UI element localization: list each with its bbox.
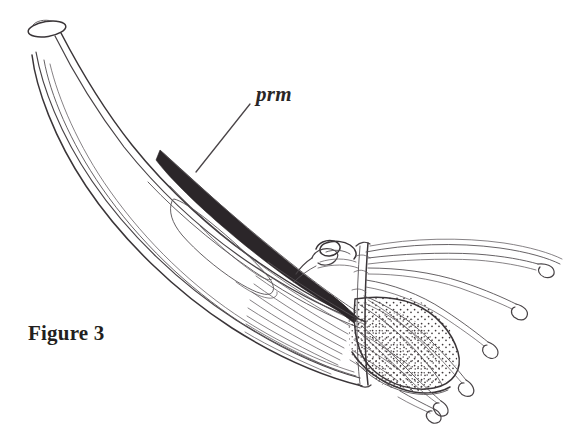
filament-5-tip — [433, 401, 448, 416]
hook-outline-2 — [312, 249, 338, 265]
hook-stem-left — [296, 258, 312, 274]
hook-ridge-a — [320, 259, 356, 262]
apical-opening-ellipse — [27, 19, 67, 40]
figure-container: prm Figure 3 — [0, 0, 581, 428]
filament-3-tip — [483, 342, 498, 358]
filament-1-tip — [538, 264, 554, 278]
prm-callout-label: prm — [254, 82, 292, 106]
filament-2-tip — [511, 304, 527, 320]
drawing-strokes: prm Figure 3 — [27, 19, 562, 424]
prm-leader-line — [196, 104, 250, 172]
lumen-upper-edge — [148, 182, 360, 328]
filament-base-curve-1 — [356, 255, 370, 258]
filament-base-curve-3 — [352, 289, 366, 292]
apical-opening-group — [27, 19, 67, 40]
cut-edge-bottom — [358, 384, 371, 387]
figure-caption: Figure 3 — [28, 321, 104, 345]
upper-sweep-contour-2 — [370, 239, 562, 259]
filament-1 — [368, 253, 538, 264]
anatomical-line-drawing: prm Figure 3 — [0, 0, 581, 428]
filament-1-b — [368, 259, 536, 270]
sheath-outer-upper — [61, 33, 366, 322]
filament-4-tip — [458, 380, 473, 396]
